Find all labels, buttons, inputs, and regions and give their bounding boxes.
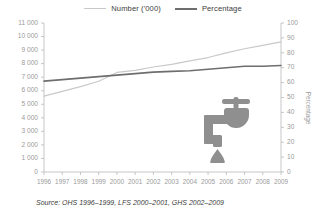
faucet-tap-icon	[182, 97, 254, 163]
y-axis-right-tick-label: 80	[287, 50, 294, 57]
y-axis-left-tick-label: 5 000	[0, 101, 38, 108]
y-axis-left-tick-label: 1 000	[0, 155, 38, 162]
y-axis-right-tick-label: 90	[287, 35, 294, 42]
y-axis-left-tick-label: 10 000	[0, 33, 38, 40]
x-axis-tick-label: 2009	[270, 179, 292, 185]
source-note: Source: OHS 1996–1999, LFS 2000–2001, GH…	[36, 199, 224, 206]
y-axis-right-tick-label: 40	[287, 109, 294, 116]
y-axis-right-tick-label: 100	[287, 20, 298, 27]
y-axis-right-title: Percentage	[305, 92, 312, 125]
y-axis-left-tick-label: 0	[0, 169, 38, 176]
y-axis-right-tick-label: 70	[287, 64, 294, 71]
chart-container: Number ('000) Percentage Source: OHS 199…	[0, 0, 326, 216]
y-axis-left-tick-label: 11 000	[0, 20, 38, 27]
y-axis-left-tick-label: 9 000	[0, 47, 38, 54]
y-axis-left-tick-label: 7 000	[0, 74, 38, 81]
y-axis-right-tick-label: 0	[287, 169, 291, 176]
y-axis-left-tick-label: 3 000	[0, 128, 38, 135]
y-axis-right-tick-label: 50	[287, 94, 294, 101]
y-axis-left-tick-label: 4 000	[0, 115, 38, 122]
y-axis-right-tick-label: 20	[287, 139, 294, 146]
y-axis-left-tick-label: 6 000	[0, 87, 38, 94]
chart-series	[44, 42, 281, 96]
y-axis-right-tick-label: 30	[287, 124, 294, 131]
y-axis-right-tick-label: 10	[287, 154, 294, 161]
y-axis-left-tick-label: 8 000	[0, 60, 38, 67]
y-axis-left-tick-label: 2 000	[0, 142, 38, 149]
y-axis-right-tick-label: 60	[287, 79, 294, 86]
